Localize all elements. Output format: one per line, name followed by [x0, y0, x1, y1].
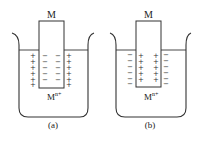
ion-label-a: Mn+ [47, 91, 62, 102]
panel-b: M − − − − − − − − − − − − + + + + + + + … [110, 9, 191, 130]
electrode-label-a: M [47, 9, 56, 20]
caption-b: (b) [145, 120, 156, 130]
caption-a: (a) [48, 120, 58, 130]
panel-a: M + + + + + + + + + + + + − − − − − − − … [12, 9, 94, 130]
svg-text:−: − [127, 80, 133, 88]
ion-label-b: Mn+ [144, 91, 159, 102]
svg-text:+: + [138, 76, 144, 84]
svg-text:−: − [55, 76, 61, 84]
svg-text:+: + [153, 76, 159, 84]
electrode-label-b: M [144, 9, 153, 20]
svg-text:−: − [163, 80, 169, 88]
svg-text:+: + [30, 81, 36, 89]
svg-text:+: + [66, 81, 72, 89]
double-layer-diagram: M + + + + + + + + + + + + − − − − − − − … [0, 0, 203, 145]
svg-text:−: − [42, 76, 48, 84]
